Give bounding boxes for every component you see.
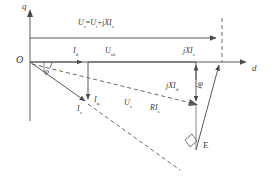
ris-subscript: s [158,109,160,114]
iq-subscript: q [97,101,99,106]
label-phi-right: φ [198,79,203,88]
label-id: Id [73,47,78,58]
label-jxid: jXId [166,82,178,93]
label-point-e: E [203,141,209,150]
q-axis-label: q [22,2,27,11]
us-subscript: s [130,104,132,109]
usd-subscript: sd [111,52,115,57]
label-is: Is [77,105,82,116]
jxid-subscript: d [176,87,178,92]
eq-xis: XI [104,18,112,27]
top-equation-label: Us=Ui+jXIs [78,19,114,30]
label-phi-origin: φ [44,67,49,76]
is-extension-dashed [88,104,180,170]
jxis-subscript: s [193,52,195,57]
q-axis [27,9,33,121]
origin-label: O [16,55,23,65]
phasor-is [30,62,85,101]
ris-symbol: RI [150,103,158,112]
label-us: Us [124,99,132,110]
right-angle-marker [185,134,197,147]
label-ris: RIs [150,104,160,115]
is-subscript: s [80,110,82,115]
phasor-diagram-canvas [0,0,274,186]
eq-xis-sub: s [112,24,114,29]
jxis-symbol: jXI [183,46,193,55]
d-axis-label: d [252,64,257,73]
phasor-diagram-figure: q O d Us=Ui+jXIs Id Usd jXIs jXId Iq Is … [0,0,274,186]
id-subscript: d [76,52,78,57]
label-iq: Iq [94,96,99,107]
label-usd: Usd [105,47,115,58]
label-jxis: jXIs [183,47,195,58]
jxid-symbol: jXI [166,81,176,90]
